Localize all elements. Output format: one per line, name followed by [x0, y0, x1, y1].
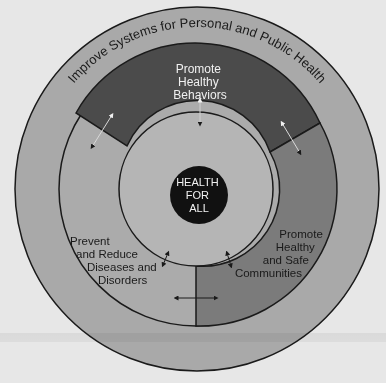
- scan-band: [0, 333, 386, 342]
- health-for-all-diagram: Improve Systems for Personal and Public …: [0, 0, 386, 383]
- diagram-canvas: Improve Systems for Personal and Public …: [0, 0, 386, 383]
- segment-top-label: Promote Healthy Behaviors: [173, 62, 226, 102]
